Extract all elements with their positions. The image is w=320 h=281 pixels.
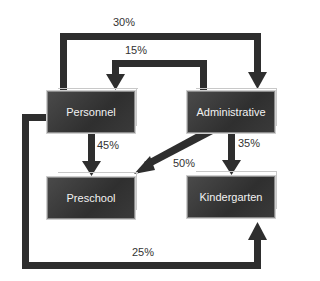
node-preschool: Preschool xyxy=(47,177,135,219)
node-label: Kindergarten xyxy=(200,191,263,203)
node-highlight xyxy=(276,88,277,126)
edge-label-personnel-kindergarten: 25% xyxy=(132,246,154,258)
node-highlight xyxy=(196,88,276,89)
edge-label-personnel-administrative: 30% xyxy=(113,16,135,28)
edge-label-personnel-preschool: 45% xyxy=(97,139,119,151)
node-personnel: Personnel xyxy=(47,91,135,133)
node-label: Preschool xyxy=(67,192,116,204)
node-highlight xyxy=(196,171,276,172)
node-label: Personnel xyxy=(66,106,116,118)
node-highlight xyxy=(58,88,138,89)
edge-label-administrative-personnel: 15% xyxy=(125,44,147,56)
edge-label-administrative-preschool: 50% xyxy=(173,157,195,169)
node-highlight xyxy=(58,172,138,173)
node-highlight xyxy=(136,172,137,210)
node-kindergarten: Kindergarten xyxy=(187,176,275,218)
node-administrative: Administrative xyxy=(187,91,275,133)
node-highlight xyxy=(136,88,137,126)
edge-label-administrative-kindergarten: 35% xyxy=(238,137,260,149)
node-highlight xyxy=(276,171,277,209)
node-label: Administrative xyxy=(196,106,265,118)
